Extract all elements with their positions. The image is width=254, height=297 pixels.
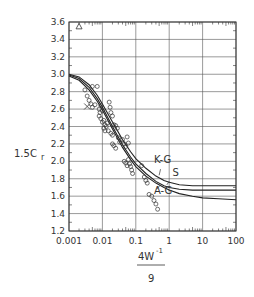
curve-k-g [69, 74, 236, 185]
x-tick-label: 0.1 [129, 236, 143, 246]
y-tick-label: 1.2 [51, 226, 65, 236]
y-tick-label: 1.8 [51, 174, 66, 184]
data-point [125, 135, 129, 139]
y-tick-label: 2.6 [51, 104, 66, 114]
curves [69, 74, 236, 199]
data-point [107, 100, 111, 104]
data-point [93, 103, 97, 107]
x-tick-label: 0.01 [92, 236, 112, 246]
data-points [76, 23, 160, 211]
data-point [110, 114, 114, 118]
data-point [108, 105, 112, 109]
y-axis-label-main: 1.5C [14, 148, 37, 159]
y-tick-label: 2.8 [51, 87, 66, 97]
y-tick-label: 2.4 [51, 122, 66, 132]
y-tick-label: 3.0 [51, 69, 66, 79]
curve-label-k-g: K-G [154, 154, 171, 165]
x-axis-label-denominator: 9 [148, 273, 154, 284]
x-tick-label: 1 [166, 236, 172, 246]
x-axis-title: 4W -1 9 [137, 247, 165, 284]
y-tick-label: 3.6 [51, 17, 66, 27]
data-point [95, 84, 99, 88]
y-axis-title: 1.5C r [14, 148, 45, 162]
cross-marker [84, 103, 90, 109]
annotations: K-GSA-G [154, 154, 179, 196]
y-tick-label: 3.4 [51, 34, 66, 44]
y-tick-label: 1.4 [51, 209, 66, 219]
x-tick-label: 10 [197, 236, 209, 246]
y-tick-label: 1.6 [51, 191, 66, 201]
curve-label-s: S [172, 167, 178, 178]
y-axis-label-sub: r [41, 153, 45, 162]
ticks: 1.21.41.61.82.02.22.42.62.83.03.23.43.60… [51, 17, 245, 246]
x-tick-label: 100 [227, 236, 244, 246]
triangle-marker [76, 23, 82, 29]
data-point [156, 207, 160, 211]
data-point [126, 158, 130, 162]
y-tick-label: 2.2 [51, 139, 65, 149]
x-axis-label-exponent: -1 [156, 247, 163, 255]
x-tick-label: 0.001 [56, 236, 82, 246]
y-tick-label: 3.2 [51, 52, 65, 62]
y-tick-label: 2.0 [51, 156, 66, 166]
x-axis-label-numerator: 4W [138, 251, 154, 262]
data-point [85, 94, 89, 98]
curve-label-a-g: A-G [154, 185, 172, 196]
chart: 1.21.41.61.82.02.22.42.62.83.03.23.43.60… [0, 0, 254, 297]
leader-line [159, 169, 160, 175]
data-point [126, 141, 130, 145]
data-point [83, 88, 87, 92]
data-point [154, 202, 158, 206]
